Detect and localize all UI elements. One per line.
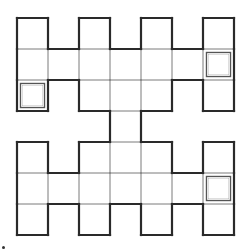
- grid-cell[interactable]: [141, 142, 172, 173]
- grid-cell[interactable]: [79, 204, 110, 235]
- grid-cell[interactable]: [110, 173, 141, 204]
- grid-cell[interactable]: [172, 49, 203, 80]
- grid-cell[interactable]: [48, 173, 79, 204]
- corner-dot: [2, 246, 5, 249]
- grid-cell[interactable]: [79, 18, 110, 49]
- grid-cell[interactable]: [79, 80, 110, 111]
- grid-cell[interactable]: [48, 49, 79, 80]
- grid-cell[interactable]: [110, 80, 141, 111]
- grid-cell[interactable]: [141, 80, 172, 111]
- grid-cell[interactable]: [79, 173, 110, 204]
- grid-cell[interactable]: [17, 142, 48, 173]
- grid-cell[interactable]: [17, 173, 48, 204]
- grid-cell[interactable]: [141, 18, 172, 49]
- grid-cell[interactable]: [110, 142, 141, 173]
- grid-cell[interactable]: [79, 142, 110, 173]
- grid-cell[interactable]: [17, 18, 48, 49]
- grid-cell[interactable]: [141, 49, 172, 80]
- grid-cell[interactable]: [172, 173, 203, 204]
- grid-cell[interactable]: [203, 204, 234, 235]
- grid-cell[interactable]: [203, 142, 234, 173]
- grid-cell[interactable]: [203, 80, 234, 111]
- grid-cell[interactable]: [110, 49, 141, 80]
- grid-cell[interactable]: [203, 18, 234, 49]
- grid-cell[interactable]: [17, 204, 48, 235]
- puzzle-board: [0, 0, 241, 251]
- grid-cell[interactable]: [141, 204, 172, 235]
- grid-cell[interactable]: [141, 173, 172, 204]
- grid-cell[interactable]: [110, 111, 141, 142]
- puzzle-grid: [0, 0, 241, 251]
- grid-cell[interactable]: [17, 49, 48, 80]
- grid-cell[interactable]: [79, 49, 110, 80]
